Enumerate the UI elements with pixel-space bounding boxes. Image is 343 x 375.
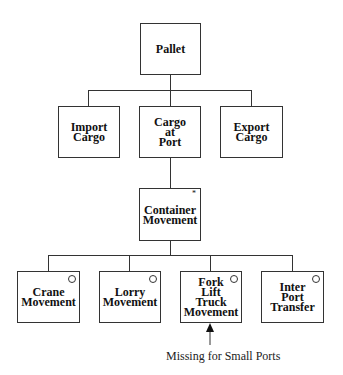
node-pallet: Pallet: [140, 23, 201, 75]
node-lorry-movement: Lorry Movement: [99, 271, 161, 323]
star-marker-icon: *: [192, 190, 196, 198]
connector: [170, 158, 171, 188]
node-cargo-at-port: Cargo at Port: [139, 106, 201, 158]
connector: [292, 255, 293, 271]
connector: [48, 255, 49, 271]
node-inter-port-transfer: Inter Port Transfer: [261, 271, 324, 323]
circle-marker-icon: [149, 275, 157, 283]
node-container-movement: Container Movement *: [139, 188, 201, 241]
circle-marker-icon: [230, 275, 238, 283]
circle-marker-icon: [312, 275, 320, 283]
connector: [88, 90, 89, 106]
connector: [210, 255, 211, 271]
connector: [88, 90, 252, 91]
node-import-cargo: Import Cargo: [58, 106, 120, 158]
node-label: Fork Lift Truck Movement: [184, 277, 239, 317]
node-label: Container Movement: [143, 205, 198, 225]
connector: [129, 255, 130, 271]
connector: [251, 90, 252, 106]
node-label: Inter Port Transfer: [270, 282, 314, 312]
connector: [170, 241, 171, 255]
node-export-cargo: Export Cargo: [220, 106, 283, 158]
circle-marker-icon: [68, 275, 76, 283]
node-label: Crane Movement: [21, 287, 76, 307]
connector: [48, 255, 293, 256]
annotation-missing-small-ports: Missing for Small Ports: [166, 349, 280, 364]
node-crane-movement: Crane Movement: [17, 271, 80, 323]
node-fork-lift-truck-movement: Fork Lift Truck Movement: [180, 271, 242, 323]
node-label: Lorry Movement: [103, 287, 158, 307]
arrow-up-icon: [203, 323, 217, 345]
